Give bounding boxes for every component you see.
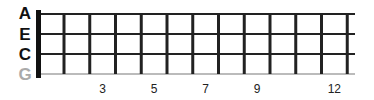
fret-number-9: 9 [254,82,261,96]
fret-number-7: 7 [202,82,209,96]
fret-number-3: 3 [99,82,106,96]
fretboard-grid [0,0,374,100]
fret-number-12: 12 [328,82,341,96]
nut [36,10,41,78]
fret-number-5: 5 [151,82,158,96]
